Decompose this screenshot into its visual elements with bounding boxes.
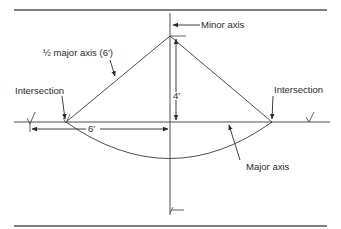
intersection-right-label: Intersection <box>274 84 323 95</box>
ellipse-arc <box>66 122 272 159</box>
half-major-axis-leader <box>110 60 115 76</box>
minor-axis-label: Minor axis <box>201 19 245 30</box>
ellipse-layout-diagram: 4′ 6′ Minor axis ½ major axis (6′) Inter… <box>0 0 341 229</box>
right-half-major-line <box>170 36 272 122</box>
intersection-left-label: Intersection <box>15 85 64 96</box>
intersection-left-leader <box>62 96 65 119</box>
dim-horizontal-label: 6′ <box>88 123 95 134</box>
right-swing-mark <box>306 112 314 122</box>
half-major-axis-label: ½ major axis (6′) <box>43 47 113 58</box>
intersection-right-leader <box>272 96 273 119</box>
dim-vertical-label: 4′ <box>173 90 180 101</box>
major-axis-label: Major axis <box>246 161 290 172</box>
